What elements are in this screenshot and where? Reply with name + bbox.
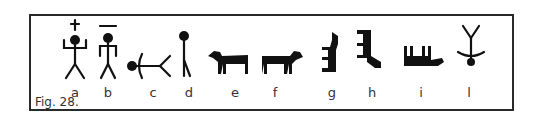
human-figure-arms-raised-with-cross-icon (60, 18, 90, 83)
standing-stick-figure-icon (176, 30, 196, 80)
quadruped-animal-icon (260, 48, 304, 76)
glyph-label-c: c (143, 85, 163, 100)
glyph-label-g: g (322, 85, 342, 100)
glyph-label-b: b (98, 85, 118, 100)
upright-animal-icon (318, 30, 342, 76)
upright-animal-icon (355, 28, 385, 72)
inverted-animal-icon (402, 44, 446, 70)
glyph-label-h: h (362, 85, 382, 100)
glyph-label-f: f (265, 85, 285, 100)
glyph-label-d: d (179, 85, 199, 100)
reclining-figure-icon (124, 50, 174, 80)
inverted-figure-icon (455, 24, 487, 70)
glyph-label-i: i (411, 85, 431, 100)
glyph-label-l: l (459, 85, 479, 100)
human-figure-with-bar-above-icon (95, 24, 121, 82)
figure-caption: Fig. 28. (35, 95, 79, 109)
quadruped-animal-icon (206, 48, 250, 76)
glyph-label-e: e (225, 85, 245, 100)
